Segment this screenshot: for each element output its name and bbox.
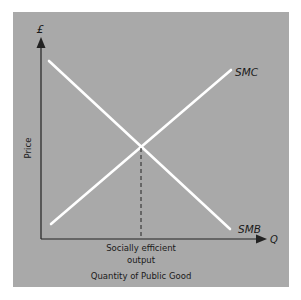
x-axis-end-label: Q: [270, 234, 278, 245]
y-axis-label: Price: [23, 138, 33, 159]
efficient-output-label-line2: output: [127, 255, 156, 265]
y-axis-end-label: £: [37, 23, 45, 36]
chart-svg: £ Q Price SMC SMB Socially efficient out…: [0, 0, 301, 300]
x-axis-arrow-icon: [256, 235, 267, 244]
y-axis-arrow-icon: [37, 37, 46, 48]
smc-label: SMC: [235, 66, 259, 78]
x-axis-label: Quantity of Public Good: [91, 271, 192, 281]
efficient-output-label-line1: Socially efficient: [106, 243, 176, 253]
smb-label: SMB: [238, 223, 261, 235]
